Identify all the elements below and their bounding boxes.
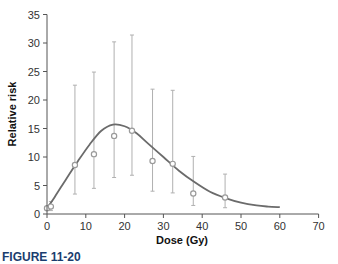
x-tick-label: 20 [118, 220, 130, 232]
y-tick-label: 30 [28, 37, 40, 49]
data-marker [191, 191, 196, 196]
x-tick-label: 10 [80, 220, 92, 232]
data-point [73, 85, 77, 194]
data-point [112, 42, 116, 178]
y-axis-title: Relative risk [6, 81, 18, 147]
data-point [92, 72, 96, 188]
x-tick-label: 60 [274, 220, 286, 232]
data-point [223, 174, 227, 208]
data-marker [112, 133, 117, 138]
y-tick-label: 15 [28, 123, 40, 135]
x-axis-title: Dose (Gy) [156, 234, 208, 246]
data-marker [48, 204, 53, 209]
data-marker [72, 162, 77, 167]
y-tick-label: 10 [28, 151, 40, 163]
y-tick-label: 35 [28, 9, 40, 21]
y-axis: 05101520253035 [28, 9, 47, 221]
y-tick-label: 20 [28, 94, 40, 106]
data-point [171, 90, 175, 193]
data-marker [170, 161, 175, 166]
y-tick-label: 5 [34, 180, 40, 192]
y-tick-label: 25 [28, 66, 40, 78]
data-point [151, 89, 155, 191]
x-tick-label: 30 [157, 220, 169, 232]
data-marker [129, 128, 134, 133]
data-marker [91, 152, 96, 157]
fitted-curve [47, 124, 280, 208]
x-tick-label: 40 [196, 220, 208, 232]
x-tick-label: 50 [235, 220, 247, 232]
x-tick-label: 0 [44, 220, 50, 232]
figure-caption: FIGURE 11-20 [2, 250, 81, 264]
x-axis: 010203040506070 [44, 214, 325, 232]
y-tick-label: 0 [34, 208, 40, 220]
plot-area [44, 35, 279, 211]
data-marker [222, 195, 227, 200]
data-point [130, 35, 134, 175]
x-tick-label: 70 [312, 220, 324, 232]
data-marker [150, 158, 155, 163]
